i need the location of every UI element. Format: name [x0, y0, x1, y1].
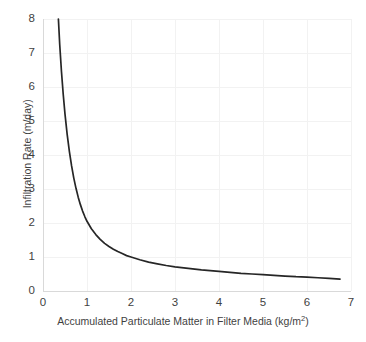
x-tick-label: 6 — [292, 297, 322, 309]
x-axis-title: Accumulated Particulate Matter in Filter… — [0, 316, 366, 328]
gridlines — [43, 19, 351, 291]
x-tick-label: 4 — [204, 297, 234, 309]
plot-canvas — [0, 0, 366, 342]
y-tick-label: 8 — [9, 13, 35, 25]
x-tick-label: 5 — [248, 297, 278, 309]
x-tick-label: 1 — [72, 297, 102, 309]
x-tick-label: 2 — [116, 297, 146, 309]
y-axis-title: Infiltration Rate (m/day) — [22, 54, 34, 254]
x-tick-label: 0 — [28, 297, 58, 309]
data-series — [58, 19, 340, 279]
x-tick-label: 3 — [160, 297, 190, 309]
x-axis-title-suffix: ) — [305, 315, 309, 327]
y-tick-label: 0 — [9, 285, 35, 297]
x-tick-label: 7 — [336, 297, 366, 309]
series-line — [58, 19, 340, 279]
chart-figure: 012345678 01234567 Accumulated Particula… — [0, 0, 366, 342]
x-axis-title-text: Accumulated Particulate Matter in Filter… — [57, 315, 301, 327]
